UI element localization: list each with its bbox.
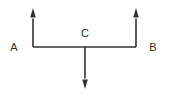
right-up-arrow-head-icon	[133, 8, 139, 18]
label-point-c: C	[81, 27, 89, 39]
force-diagram-figure: A C B	[0, 0, 170, 94]
left-up-arrow-head-icon	[30, 8, 36, 18]
label-point-b: B	[149, 41, 156, 53]
diagram-canvas: A C B	[0, 0, 170, 94]
label-point-a: A	[10, 41, 18, 53]
center-down-arrow-head-icon	[82, 80, 88, 90]
